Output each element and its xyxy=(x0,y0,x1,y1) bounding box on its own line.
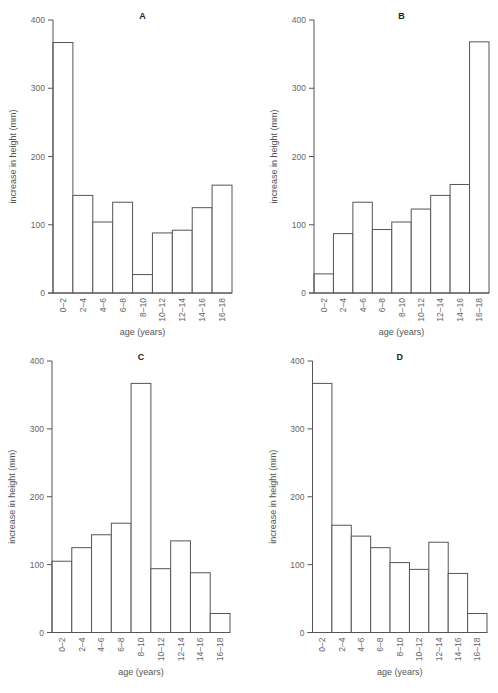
x-tick-label: 6–8 xyxy=(377,298,387,312)
bar-6-8 xyxy=(371,548,390,633)
chart-panel-a: A01002003004000–22–44–66–88–1010–1212–14… xyxy=(8,11,232,337)
x-tick-label: 2–4 xyxy=(338,298,348,312)
y-tick-label: 100 xyxy=(30,560,44,570)
x-tick-label: 4–6 xyxy=(96,637,106,651)
bar-2-4 xyxy=(72,548,92,633)
bar-14-16 xyxy=(190,573,210,633)
y-tick-label: 200 xyxy=(290,492,304,502)
bar-4-6 xyxy=(353,202,372,293)
bar-2-4 xyxy=(332,525,351,632)
y-tick-label: 0 xyxy=(300,628,305,638)
x-tick-label: 12–14 xyxy=(434,637,444,661)
x-tick-label: 8–10 xyxy=(395,637,405,656)
bar-16-18 xyxy=(468,614,487,633)
bar-8-10 xyxy=(392,222,411,293)
x-tick-label: 8–10 xyxy=(397,298,407,317)
x-tick-label: 12–14 xyxy=(435,298,445,322)
bar-10-12 xyxy=(411,209,430,293)
y-tick-label: 300 xyxy=(30,424,44,434)
y-tick-label: 100 xyxy=(290,560,304,570)
charts-svg: A01002003004000–22–44–66–88–1010–1212–14… xyxy=(0,0,498,693)
x-tick-label: 12–14 xyxy=(176,637,186,661)
bar-8-10 xyxy=(131,383,151,632)
chart-panel-c: C01002003004000–22–44–66–88–1010–1212–14… xyxy=(7,352,230,677)
x-tick-label: 8–10 xyxy=(136,637,146,656)
x-tick-label: 16–18 xyxy=(472,637,482,661)
x-tick-label: 0–2 xyxy=(319,298,329,312)
bar-4-6 xyxy=(93,222,113,293)
bar-4-6 xyxy=(351,536,370,632)
chart-panel-d: D01002003004000–22–44–66–88–1010–1212–14… xyxy=(268,352,488,677)
y-tick-label: 200 xyxy=(30,492,44,502)
y-tick-label: 200 xyxy=(31,152,45,162)
x-tick-label: 4–6 xyxy=(356,637,366,651)
bar-8-10 xyxy=(390,563,409,633)
x-tick-label: 6–8 xyxy=(118,298,128,312)
y-tick-label: 400 xyxy=(292,15,306,25)
y-tick-label: 0 xyxy=(39,628,44,638)
x-tick-label: 10–12 xyxy=(416,298,426,322)
x-tick-label: 16–18 xyxy=(474,298,484,322)
x-tick-label: 6–8 xyxy=(375,637,385,651)
bar-10-12 xyxy=(409,569,428,632)
panel-title: B xyxy=(398,11,405,21)
y-tick-label: 300 xyxy=(290,424,304,434)
bar-8-10 xyxy=(133,275,153,293)
bar-4-6 xyxy=(92,535,112,633)
figure-four-bar-charts: A01002003004000–22–44–66–88–1010–1212–14… xyxy=(0,0,498,693)
x-axis-title: age (years) xyxy=(118,667,164,677)
bar-0-2 xyxy=(313,383,332,632)
y-tick-label: 300 xyxy=(292,83,306,93)
x-tick-label: 4–6 xyxy=(358,298,368,312)
x-tick-label: 10–12 xyxy=(414,637,424,661)
bar-12-14 xyxy=(171,541,191,633)
bar-0-2 xyxy=(52,561,72,632)
bar-16-18 xyxy=(212,185,232,293)
x-tick-label: 16–18 xyxy=(215,637,225,661)
bar-12-14 xyxy=(431,195,450,293)
x-tick-label: 14–16 xyxy=(195,637,205,661)
x-tick-label: 4–6 xyxy=(98,298,108,312)
bar-14-16 xyxy=(450,184,469,293)
bar-2-4 xyxy=(73,195,93,293)
y-axis-title: increase in height (mm) xyxy=(269,109,279,203)
x-tick-label: 2–4 xyxy=(337,637,347,651)
chart-panel-b: B01002003004000–22–44–66–88–1010–1212–14… xyxy=(269,11,489,337)
y-axis-title: increase in height (mm) xyxy=(7,450,17,544)
y-tick-label: 400 xyxy=(30,356,44,366)
x-axis-title: age (years) xyxy=(120,327,166,337)
bar-6-8 xyxy=(372,230,391,293)
x-tick-label: 14–16 xyxy=(453,637,463,661)
x-tick-label: 12–14 xyxy=(177,298,187,322)
x-tick-label: 14–16 xyxy=(455,298,465,322)
x-tick-label: 14–16 xyxy=(197,298,207,322)
bar-0-2 xyxy=(53,43,73,293)
bar-14-16 xyxy=(448,573,467,632)
bar-12-14 xyxy=(429,542,448,632)
x-tick-label: 6–8 xyxy=(116,637,126,651)
panel-title: C xyxy=(138,352,145,362)
panel-title: D xyxy=(397,352,404,362)
bar-10-12 xyxy=(151,569,171,633)
y-tick-label: 400 xyxy=(290,356,304,366)
y-axis-title: increase in height (mm) xyxy=(8,109,18,203)
x-axis-title: age (years) xyxy=(379,327,425,337)
x-tick-label: 10–12 xyxy=(156,637,166,661)
y-axis-title: increase in height (mm) xyxy=(268,450,278,544)
y-tick-label: 0 xyxy=(40,288,45,298)
x-axis-title: age (years) xyxy=(377,667,423,677)
x-tick-label: 10–12 xyxy=(157,298,167,322)
x-tick-label: 0–2 xyxy=(58,298,68,312)
y-tick-label: 100 xyxy=(292,220,306,230)
x-tick-label: 0–2 xyxy=(317,637,327,651)
bar-14-16 xyxy=(192,208,212,293)
x-tick-label: 2–4 xyxy=(78,298,88,312)
x-tick-label: 16–18 xyxy=(217,298,227,322)
y-tick-label: 200 xyxy=(292,152,306,162)
bar-2-4 xyxy=(333,234,352,293)
bar-6-8 xyxy=(111,523,131,632)
x-tick-label: 8–10 xyxy=(138,298,148,317)
bar-10-12 xyxy=(152,233,172,293)
bar-16-18 xyxy=(470,42,489,293)
bar-6-8 xyxy=(113,202,133,293)
